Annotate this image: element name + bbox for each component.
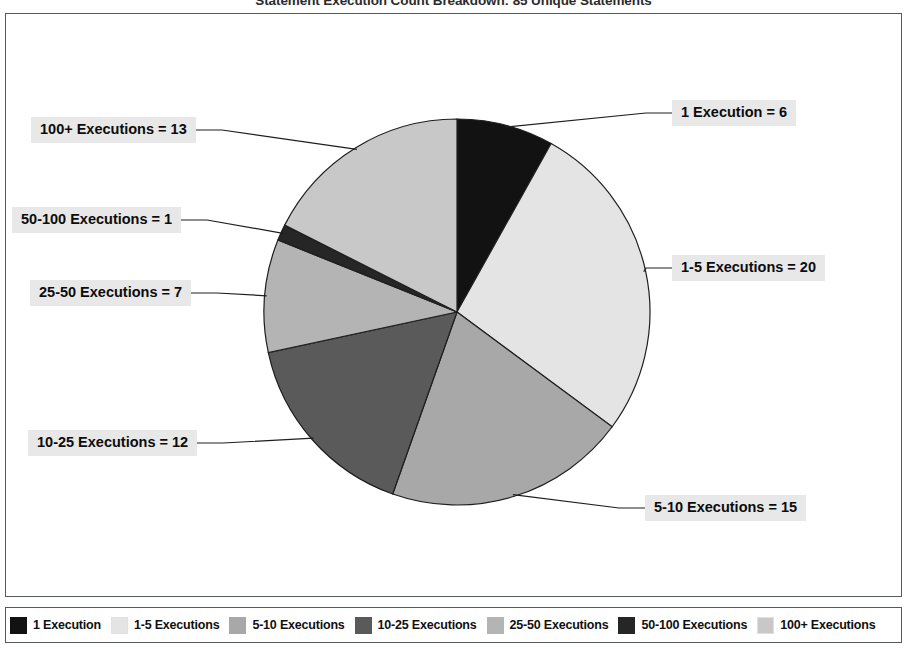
- legend-color-swatch: [10, 617, 27, 634]
- legend-item[interactable]: 1-5 Executions: [111, 617, 219, 634]
- pie-slice-callout-label: 1 Execution = 6: [672, 100, 796, 126]
- pie-slice-callout-label: 100+ Executions = 13: [31, 117, 196, 143]
- legend-color-swatch: [229, 617, 246, 634]
- legend-color-swatch: [111, 617, 128, 634]
- legend-item[interactable]: 1 Execution: [10, 617, 101, 634]
- legend-item-label: 5-10 Executions: [252, 618, 344, 632]
- callout-leader-line: [513, 495, 645, 508]
- pie-slice-callout-label: 10-25 Executions = 12: [28, 430, 197, 456]
- pie-slice-callout-label: 1-5 Executions = 20: [672, 255, 825, 281]
- legend-item-label: 25-50 Executions: [510, 618, 609, 632]
- pie-slice-callout-label: 25-50 Executions = 7: [30, 280, 191, 306]
- callout-leader-line: [181, 220, 283, 233]
- callout-leader-line: [191, 293, 267, 296]
- legend-item-label: 50-100 Executions: [641, 618, 747, 632]
- legend-item[interactable]: 5-10 Executions: [229, 617, 344, 634]
- pie-slice-callout-label: 5-10 Executions = 15: [645, 495, 806, 521]
- legend-item-label: 1 Execution: [33, 618, 101, 632]
- callout-leader-line: [505, 113, 672, 127]
- legend-color-swatch: [355, 617, 372, 634]
- legend-item-label: 1-5 Executions: [134, 618, 219, 632]
- chart-legend: 1 Execution1-5 Executions5-10 Executions…: [5, 607, 902, 643]
- callout-leader-line: [197, 438, 314, 443]
- pie-slice-group: [264, 119, 650, 505]
- legend-item-label: 10-25 Executions: [378, 618, 477, 632]
- callout-leader-line: [644, 268, 672, 272]
- legend-color-swatch: [757, 617, 774, 634]
- legend-item[interactable]: 25-50 Executions: [487, 617, 609, 634]
- legend-color-swatch: [618, 617, 635, 634]
- legend-color-swatch: [487, 617, 504, 634]
- callout-leader-line: [196, 130, 357, 149]
- chart-root: Statement Execution Count Breakdown: 85 …: [0, 0, 907, 649]
- pie-slice-callout-label: 50-100 Executions = 1: [12, 207, 181, 233]
- legend-item[interactable]: 100+ Executions: [757, 617, 875, 634]
- legend-item-label: 100+ Executions: [780, 618, 875, 632]
- legend-item[interactable]: 10-25 Executions: [355, 617, 477, 634]
- legend-item[interactable]: 50-100 Executions: [618, 617, 747, 634]
